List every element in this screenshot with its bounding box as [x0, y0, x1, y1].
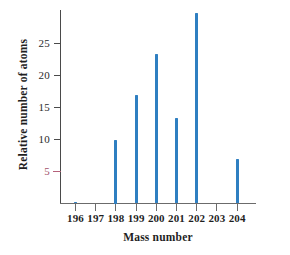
x-axis-tick	[196, 204, 197, 211]
y-axis-tick	[54, 43, 61, 44]
y-axis-tick	[54, 139, 61, 140]
bar	[155, 54, 158, 203]
y-axis-title: Relative number of atoms	[17, 30, 30, 180]
bar	[236, 159, 239, 203]
x-axis-tick-label: 204	[222, 212, 252, 224]
y-axis-tick	[54, 107, 61, 108]
bar	[114, 140, 117, 204]
x-axis-tick	[75, 204, 76, 211]
bar	[195, 13, 198, 203]
bar	[135, 95, 138, 204]
y-axis-tick	[53, 171, 61, 172]
mass-spectrum-chart: 510152025 196197198199200201202203204 Ma…	[0, 0, 290, 255]
x-axis-line	[60, 203, 256, 204]
y-axis-tick	[54, 75, 61, 76]
x-axis-tick	[237, 204, 238, 211]
x-axis-title: Mass number	[60, 231, 256, 244]
x-axis-tick	[216, 204, 217, 211]
x-axis-tick	[115, 204, 116, 211]
x-axis-tick	[176, 204, 177, 211]
x-axis-tick	[95, 204, 96, 211]
x-axis-tick	[156, 204, 157, 211]
bar	[175, 118, 178, 204]
x-axis-tick	[136, 204, 137, 211]
